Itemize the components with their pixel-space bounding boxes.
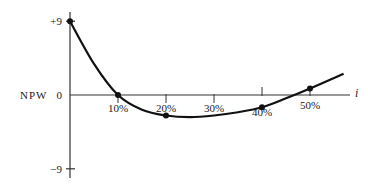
y-tick-label: +9 bbox=[50, 15, 62, 27]
axes bbox=[70, 12, 350, 178]
x-axis-label: i bbox=[355, 86, 358, 100]
x-tick-label: 50% bbox=[300, 99, 320, 111]
y-tick-label: 0 bbox=[57, 89, 63, 101]
data-point bbox=[307, 85, 313, 91]
data-point bbox=[163, 113, 169, 119]
y-axis-label: NPW bbox=[20, 89, 47, 101]
npw-chart: +90−910%20%30%40%50%NPWi bbox=[0, 0, 368, 189]
x-tick-label: 20% bbox=[156, 102, 176, 114]
data-points bbox=[67, 18, 313, 118]
data-point bbox=[259, 104, 265, 110]
x-tick-label: 10% bbox=[108, 102, 128, 114]
y-tick-label: −9 bbox=[50, 163, 62, 175]
x-tick-label: 30% bbox=[204, 102, 224, 114]
data-point bbox=[115, 92, 121, 98]
data-point bbox=[67, 18, 73, 24]
